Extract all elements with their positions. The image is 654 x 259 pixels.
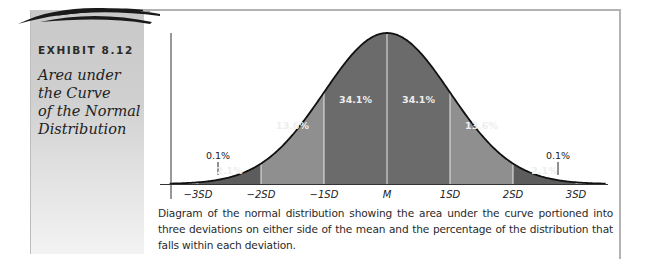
segment-percent-label: 13.6% xyxy=(276,120,309,131)
x-tick-label: 2SD xyxy=(503,189,524,200)
x-tick-label: 3SD xyxy=(566,189,587,200)
x-tick-label: 1SD xyxy=(440,189,461,200)
x-tick-label: −3SD xyxy=(184,189,213,200)
segment-percent-label: 13.6% xyxy=(465,120,498,131)
segment-percent-label: 2.1% xyxy=(216,165,243,176)
figure-caption: Diagram of the normal distribution showi… xyxy=(158,205,613,253)
segment-percent-label: 34.1% xyxy=(339,94,372,105)
segment-area xyxy=(387,33,450,184)
segment-percent-label: 0.1% xyxy=(206,150,230,161)
x-tick-label: M xyxy=(383,189,392,200)
segment-percent-label: 0.1% xyxy=(546,150,570,161)
segment-percent-label: 2.1% xyxy=(531,165,558,176)
segment-area xyxy=(324,33,387,184)
x-tick-label: −2SD xyxy=(247,189,276,200)
segment-percent-label: 34.1% xyxy=(402,94,435,105)
x-tick-label: −1SD xyxy=(310,189,339,200)
